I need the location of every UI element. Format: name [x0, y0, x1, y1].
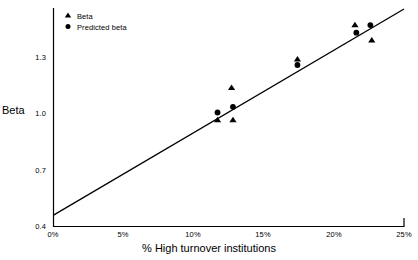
y-tick-label-1: 1.3 [20, 53, 46, 62]
data-point-circle-1-3 [353, 30, 359, 36]
x-tick-label-3: 10% [179, 230, 207, 239]
data-point-circle-1-4 [367, 22, 373, 28]
legend-markers [65, 13, 71, 29]
y-tick-label-3: 0.7 [20, 166, 46, 175]
data-point-triangle-0-3 [294, 56, 301, 62]
x-tick-label-5: 20% [320, 230, 348, 239]
data-point-triangle-0-4 [351, 22, 358, 28]
legend-marker-triangle [65, 13, 71, 18]
x-tick-label-1: 0% [39, 230, 67, 239]
data-point-triangle-0-5 [368, 37, 375, 43]
data-point-circle-1-0 [215, 110, 221, 116]
data-point-circle-1-2 [295, 62, 301, 68]
x-axis-title: % High turnover institutions [0, 242, 418, 254]
legend-marker-circle [66, 24, 71, 29]
data-point-triangle-0-2 [228, 84, 235, 90]
data-point-triangle-0-1 [229, 117, 236, 123]
legend-item-predicted-beta: Predicted beta [77, 23, 127, 32]
trend-line-segment [54, 9, 405, 215]
data-point-circle-1-1 [230, 104, 236, 110]
x-tick-label-4: 15% [249, 230, 277, 239]
x-tick-label-2: 5% [109, 230, 137, 239]
y-tick-label-2: 1.0 [20, 109, 46, 118]
plot-area-svg [0, 0, 418, 260]
trend-line [54, 9, 405, 215]
data-markers [214, 22, 375, 123]
scatter-chart: Beta % High turnover institutions 1.3 1.… [0, 0, 418, 260]
x-tick-label-6: 25% [390, 230, 418, 239]
legend-item-beta: Beta [77, 12, 93, 21]
